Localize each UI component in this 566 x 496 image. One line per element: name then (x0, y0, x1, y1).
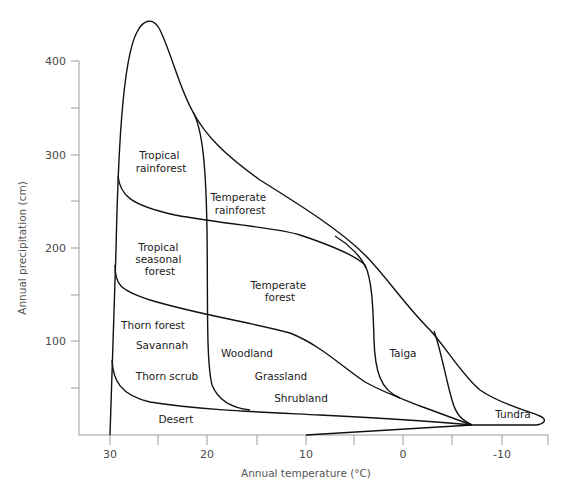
label-tropical-rainforest: Tropical rainforest (136, 149, 187, 174)
label-woodland: Woodland (221, 347, 273, 359)
y-tick-label: 400 (45, 55, 66, 68)
x-tick-label: 30 (103, 448, 117, 461)
y-tick-label: 100 (45, 335, 66, 348)
label-taiga: Taiga (388, 347, 416, 359)
label-desert: Desert (159, 413, 194, 425)
x-axis: 30 20 10 0 -10 Annual temperature (°C) (79, 435, 548, 479)
x-tick-label: 0 (400, 448, 407, 461)
biome-labels: Tropical rainforest Temperate rainforest… (120, 149, 531, 425)
label-savannah: Savannah (136, 339, 188, 351)
x-axis-title: Annual temperature (°C) (241, 467, 371, 479)
label-temperate-rainforest: Temperate rainforest (209, 191, 269, 216)
boundary-taiga-tundra (434, 331, 472, 425)
label-temperate-forest: Temperate forest (249, 279, 309, 303)
label-grassland: Grassland (255, 370, 308, 382)
x-tick-label: 10 (299, 448, 313, 461)
y-tick-label: 300 (45, 149, 66, 162)
label-shrubland: Shrubland (274, 392, 328, 404)
x-tick-label: 20 (200, 448, 214, 461)
label-tropical-seasonal-forest: Tropical seasonal forest (135, 241, 185, 277)
y-axis: 400 300 200 100 Annual precipitation (cm… (16, 55, 79, 435)
biome-diagram: 400 300 200 100 Annual precipitation (cm… (0, 0, 566, 496)
label-thorn-scrub: Thorn scrub (135, 370, 199, 382)
y-tick-label: 200 (45, 242, 66, 255)
y-axis-title: Annual precipitation (cm) (16, 181, 28, 315)
boundary-20c (193, 112, 250, 410)
x-tick-label: -10 (493, 448, 511, 461)
label-tundra: Tundra (494, 408, 531, 420)
label-thorn-forest: Thorn forest (120, 319, 185, 331)
